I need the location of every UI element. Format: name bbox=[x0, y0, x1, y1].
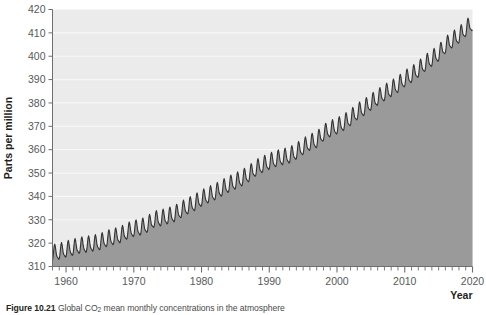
x-axis-tick-label: 1960 bbox=[54, 275, 78, 287]
y-axis-tick-label: 390 bbox=[28, 73, 46, 85]
x-axis-tick-label: 2010 bbox=[393, 275, 417, 287]
y-axis-tick-label: 350 bbox=[28, 167, 46, 179]
y-axis-tick-label: 400 bbox=[28, 50, 46, 62]
x-axis-tick-label: 1970 bbox=[122, 275, 146, 287]
x-axis-tick-label: 2020 bbox=[461, 275, 485, 287]
x-axis-tick-label: 1980 bbox=[190, 275, 214, 287]
y-axis-tick-label: 370 bbox=[28, 120, 46, 132]
y-axis-tick-label: 360 bbox=[28, 143, 46, 155]
figure-container: 3103203303403503603703803904004104201960… bbox=[0, 0, 486, 315]
y-axis-tick-label: 330 bbox=[28, 214, 46, 226]
y-axis-tick-label: 380 bbox=[28, 97, 46, 109]
y-axis-tick-label: 340 bbox=[28, 190, 46, 202]
figure-number: Figure 10.21 bbox=[6, 303, 56, 313]
y-axis-tick-label: 310 bbox=[28, 260, 46, 272]
co2-concentration-chart: 3103203303403503603703803904004104201960… bbox=[0, 0, 486, 315]
x-axis-tick-label: 1990 bbox=[258, 275, 282, 287]
caption-text-part-b: mean monthly concentrations in the atmos… bbox=[101, 303, 285, 313]
figure-caption: Figure 10.21 Global CO2 mean monthly con… bbox=[6, 303, 476, 315]
y-axis-tick-label: 320 bbox=[28, 237, 46, 249]
caption-text-part-a: Global CO bbox=[56, 303, 98, 313]
y-axis-tick-label: 420 bbox=[28, 3, 46, 15]
x-axis-title: Year bbox=[450, 289, 472, 301]
y-axis-tick-label: 410 bbox=[28, 27, 46, 39]
y-axis-title: Parts per million bbox=[2, 97, 14, 179]
x-axis-tick-label: 2000 bbox=[325, 275, 349, 287]
